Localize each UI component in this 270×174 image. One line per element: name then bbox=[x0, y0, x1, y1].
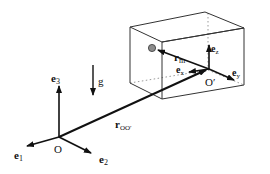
label-origin: O bbox=[54, 143, 62, 155]
reference-frames-diagram: e3 e1 e2 O g rOO′ rm ex ey ez O′ bbox=[0, 0, 270, 174]
r-oo-vector bbox=[59, 70, 206, 137]
label-e2: e2 bbox=[99, 153, 108, 167]
label-e3: e3 bbox=[51, 72, 60, 86]
mass-point bbox=[148, 44, 155, 51]
label-e1: e1 bbox=[14, 149, 23, 163]
label-g: g bbox=[98, 75, 104, 87]
label-ez: ez bbox=[211, 43, 219, 56]
e2-arrow bbox=[59, 137, 91, 153]
label-o-prime: O′ bbox=[205, 76, 215, 88]
box-front-face bbox=[162, 28, 244, 99]
label-r-m: rm bbox=[174, 51, 186, 65]
label-r-oo: rOO′ bbox=[115, 118, 132, 132]
hidden-edge-bottom bbox=[130, 70, 208, 83]
label-ey: ey bbox=[232, 67, 240, 80]
label-ex: ex bbox=[176, 64, 184, 77]
box bbox=[130, 12, 244, 99]
